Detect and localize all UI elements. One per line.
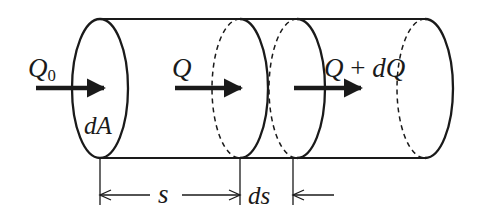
inflow-symbol: Q <box>28 53 48 83</box>
end-cap-arc <box>425 19 453 158</box>
inflow-subscript: 0 <box>48 66 56 85</box>
flow-at-s-plus-ds-label: Q + dQ <box>324 55 405 82</box>
dimension-lines <box>100 158 334 205</box>
flow-at-s-label: Q <box>172 55 192 82</box>
distance-increment-label: ds <box>248 183 270 208</box>
flow-cylinder-diagram <box>0 0 489 218</box>
cylinder-body <box>72 19 453 158</box>
hidden-arc-end <box>397 19 425 158</box>
area-element-label: dA <box>84 113 112 138</box>
hidden-arc-s-plus-ds <box>269 19 297 158</box>
flow-dq-symbol: dQ <box>372 53 405 83</box>
distance-label: s <box>158 181 169 208</box>
flow-q-symbol: Q <box>324 53 344 83</box>
inflow-label: Q0 <box>28 55 56 85</box>
plus-operator: + <box>350 53 365 83</box>
section-arc-s <box>240 19 268 158</box>
